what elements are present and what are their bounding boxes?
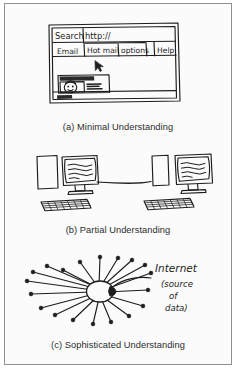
left-screen-text-line-2 <box>68 169 91 171</box>
tab-label-options[interactable]: options <box>121 46 149 55</box>
spoke-6 <box>105 265 145 287</box>
figure-frame: Search http:// Email Hot mail options He… <box>4 3 232 365</box>
two-computers-sketch <box>5 142 231 222</box>
internet-hub-dark-node <box>109 287 117 297</box>
right-screen-text-line-1 <box>181 163 205 165</box>
spoke-endpoint-4 <box>116 256 120 260</box>
annotation-subtitle-line-3: data) <box>165 303 188 313</box>
spoke-endpoint-9 <box>141 304 145 308</box>
cartoon-face-eye-right <box>72 86 74 88</box>
right-screen-text-line-2 <box>181 167 204 169</box>
right-tower <box>152 155 169 186</box>
spoke-endpoint-1 <box>61 268 65 272</box>
tab-label-hotmail[interactable]: Hot mail <box>87 46 119 55</box>
spoke-endpoint-6 <box>143 263 147 267</box>
right-monitor-screen <box>178 157 210 182</box>
left-tower <box>37 156 58 190</box>
internet-hub-sketch: Internet (source of data) <box>5 246 231 338</box>
status-bar-scribble <box>57 95 72 99</box>
tab-label-email[interactable]: Email <box>57 47 78 56</box>
annotation-title-internet: Internet <box>155 262 198 274</box>
spoke-endpoint-11 <box>109 320 113 324</box>
spoke-endpoint-7 <box>149 271 153 275</box>
right-screen-text-line-4 <box>182 176 192 177</box>
spoke-endpoint-16 <box>29 292 33 296</box>
spoke-endpoint-13 <box>71 318 75 322</box>
annotation-subtitle-line-1: (source <box>161 279 193 289</box>
left-monitor-screen <box>65 158 96 183</box>
spoke-endpoint-12 <box>91 322 95 326</box>
panel-a-artwork: Search http:// Email Hot mail options He… <box>5 4 231 117</box>
banner-ad-body-scribble <box>87 84 102 89</box>
spoke-endpoint-19 <box>45 264 49 268</box>
tab-label-help[interactable]: Help <box>157 46 174 55</box>
panel-b-artwork <box>5 142 231 222</box>
tab-divider-1 <box>84 43 85 56</box>
right-screen-text-line-3 <box>182 172 206 174</box>
spoke-16 <box>31 292 93 294</box>
spoke-15 <box>41 294 94 308</box>
address-bar-url-text: http:// <box>85 31 111 41</box>
mouse-pointer-icon <box>95 61 103 72</box>
internet-annotation-group: Internet (source of data) <box>155 262 198 313</box>
right-monitor-neck <box>188 184 198 190</box>
cartoon-face-eye-left <box>67 86 69 88</box>
spoke-endpoint-8 <box>146 288 150 292</box>
left-screen-text-line-4 <box>69 178 79 179</box>
panel-sophisticated-understanding: Internet (source of data) (c) Sophistica… <box>5 246 231 364</box>
tab-divider-4 <box>154 42 155 55</box>
left-monitor-neck <box>75 185 85 191</box>
panel-minimal-understanding: Search http:// Email Hot mail options He… <box>5 4 231 142</box>
browser-window-sketch: Search http:// Email Hot mail options He… <box>5 4 231 117</box>
spoke-endpoint-14 <box>53 313 57 317</box>
spoke-endpoint-10 <box>127 314 131 318</box>
caption-panel-b: (b) Partial Understanding <box>5 225 231 235</box>
spoke-endpoint-3 <box>98 255 102 259</box>
caption-panel-c: (c) Sophisticated Understanding <box>5 340 231 350</box>
network-cable <box>97 182 151 184</box>
cartoon-face-mouth <box>68 90 73 91</box>
spoke-endpoint-17 <box>25 279 29 283</box>
spoke-19 <box>47 266 96 287</box>
spoke-endpoint-2 <box>78 260 82 264</box>
right-monitor-base <box>181 190 206 194</box>
spoke-endpoint-18 <box>31 270 35 274</box>
banner-ad-headline-scribble <box>60 76 95 81</box>
spoke-endpoint-15 <box>39 306 43 310</box>
panel-c-artwork: Internet (source of data) <box>5 246 231 338</box>
left-screen-text-line-3 <box>69 173 93 175</box>
spoke-endpoint-5 <box>130 258 134 262</box>
annotation-subtitle-line-2: of <box>169 291 179 301</box>
left-screen-text-line-1 <box>68 164 92 166</box>
panel-partial-understanding: (b) Partial Understanding <box>5 142 231 246</box>
caption-panel-a: (a) Minimal Understanding <box>5 122 231 132</box>
address-bar-search-label: Search <box>55 31 84 41</box>
address-bar-bottom-rule <box>53 41 176 42</box>
left-monitor-base <box>68 191 93 195</box>
